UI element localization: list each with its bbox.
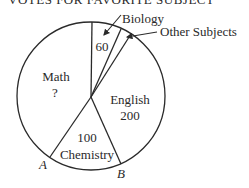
label-chemistry: Chemistry	[60, 147, 115, 162]
pie-chart: VOTES FOR FAVORITE SUBJECT Biology Other…	[0, 0, 249, 188]
label-english: English	[110, 92, 150, 107]
chart-title: VOTES FOR FAVORITE SUBJECT	[8, 0, 214, 7]
boundary-math-biology	[91, 22, 92, 97]
biology-arrow	[104, 15, 121, 35]
value-english: 200	[120, 108, 140, 123]
value-chemistry: 100	[77, 130, 97, 145]
label-other-subjects: Other Subjects	[160, 24, 237, 39]
point-b-label: B	[117, 166, 125, 181]
value-math: ?	[52, 85, 58, 100]
label-math: Math	[42, 69, 70, 84]
value-biology: 60	[96, 39, 109, 54]
label-biology: Biology	[122, 11, 164, 26]
point-a-label: A	[38, 157, 47, 172]
